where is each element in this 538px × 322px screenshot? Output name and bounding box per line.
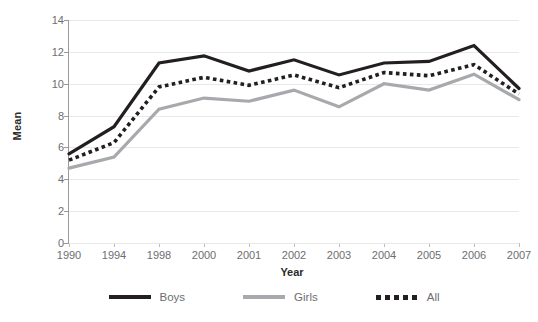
x-axis-tick-label: 1998 bbox=[147, 250, 171, 261]
legend-item-boys[interactable]: Boys bbox=[109, 291, 186, 303]
x-axis-title-label: Year bbox=[234, 266, 303, 278]
y-axis-tick-label: 4 bbox=[4, 174, 64, 185]
series-lines bbox=[69, 20, 519, 243]
y-axis-tick-label: 8 bbox=[4, 110, 64, 121]
series-line-girls bbox=[69, 74, 519, 168]
y-axis-tick-label: 14 bbox=[4, 15, 64, 26]
y-axis-tick-label: 12 bbox=[4, 46, 64, 57]
x-axis-tick-label: 1990 bbox=[57, 250, 81, 261]
series-line-boys bbox=[69, 45, 519, 153]
x-axis-tick-label: 2002 bbox=[282, 250, 306, 261]
y-axis-tick-label: 6 bbox=[4, 142, 64, 153]
series-line-all bbox=[69, 65, 519, 161]
y-axis-tick-label: 0 bbox=[4, 238, 64, 249]
x-axis-tick-label: 2000 bbox=[192, 250, 216, 261]
legend-label: Girls bbox=[294, 291, 318, 303]
chart-legend: BoysGirlsAll bbox=[0, 291, 538, 303]
x-axis-tick-label: 2005 bbox=[417, 250, 441, 261]
x-axis-title: Year bbox=[0, 266, 538, 278]
x-axis-tick-label: 2003 bbox=[327, 250, 351, 261]
x-axis-tick-label: 2006 bbox=[462, 250, 486, 261]
legend-item-girls[interactable]: Girls bbox=[243, 291, 318, 303]
dotted-line-dark-icon bbox=[376, 295, 418, 300]
y-axis-tick-label: 10 bbox=[4, 78, 64, 89]
x-axis-tick-label: 1994 bbox=[102, 250, 126, 261]
legend-item-all[interactable]: All bbox=[376, 291, 440, 303]
x-axis-tick bbox=[519, 243, 520, 247]
solid-line-dark-icon bbox=[109, 295, 151, 299]
line-chart: Mean 02468101214 19901994199820002001200… bbox=[0, 0, 538, 322]
solid-line-gray-icon bbox=[243, 295, 285, 299]
y-axis-tick-label: 2 bbox=[4, 206, 64, 217]
x-axis-tick-label: 2007 bbox=[507, 250, 531, 261]
plot-area bbox=[69, 20, 519, 243]
legend-label: All bbox=[427, 291, 440, 303]
x-axis-tick-label: 2004 bbox=[372, 250, 396, 261]
x-axis-tick-label: 2001 bbox=[237, 250, 261, 261]
gridline bbox=[69, 243, 519, 244]
legend-label: Boys bbox=[160, 291, 186, 303]
